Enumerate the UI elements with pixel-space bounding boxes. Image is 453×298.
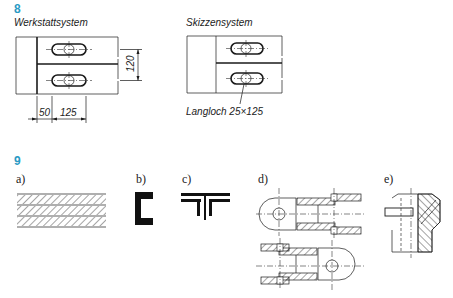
dim-125: 125 — [60, 107, 77, 118]
dim-50: 50 — [39, 107, 51, 118]
callout-langloch: Langloch 25×125 — [186, 106, 263, 117]
skizzen-drawing — [187, 36, 282, 104]
drawing-canvas: 120 50 125 — [0, 0, 453, 298]
figure-9c-drawing — [181, 193, 230, 220]
figure-9a-drawing — [17, 194, 106, 227]
werkstatt-drawing: 120 50 125 — [16, 37, 142, 123]
figure-label-b: b) — [136, 172, 146, 187]
figure-label-c: c) — [182, 172, 191, 187]
figure-label-d: d) — [258, 172, 268, 187]
dim-120: 120 — [125, 55, 136, 72]
figure-9d-drawing — [256, 188, 365, 290]
figure-9e-drawing — [385, 188, 440, 258]
figure-label-a: a) — [16, 172, 25, 187]
figure-label-e: e) — [384, 172, 393, 187]
section-number-9: 9 — [14, 154, 21, 168]
figure-9b-drawing — [135, 192, 153, 225]
